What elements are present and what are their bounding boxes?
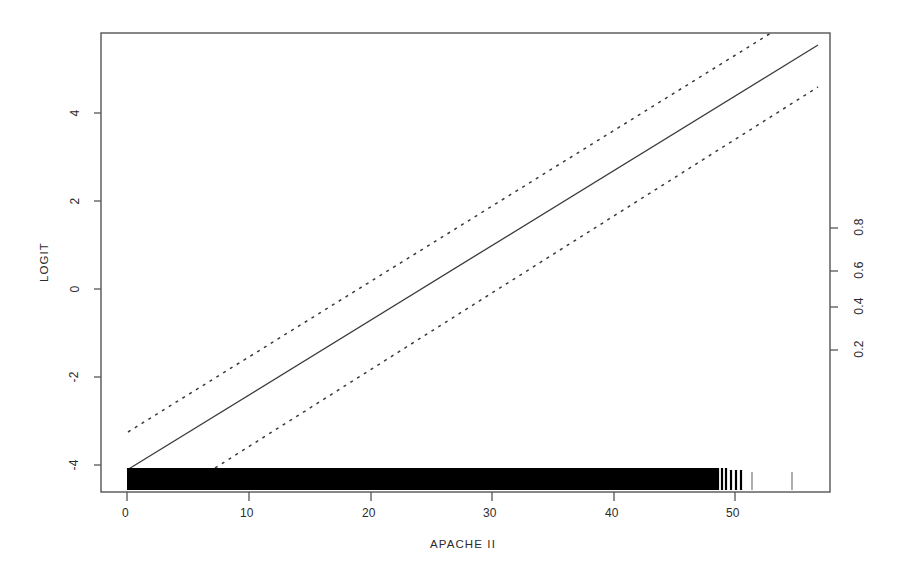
- x-axis-ticks: [127, 492, 735, 501]
- rug-isolated-marks: [752, 472, 792, 490]
- x-tick-label-20: 20: [362, 506, 376, 520]
- y2-tick-label-08: 0.8: [852, 218, 866, 235]
- y2-tick-label-02: 0.2: [852, 340, 866, 357]
- x-tick-label-40: 40: [605, 506, 619, 520]
- rug-sparse-marks: [718, 468, 741, 490]
- y-tick-label-neg4: -4: [67, 459, 81, 470]
- y-tick-label-0: 0: [68, 286, 82, 293]
- x-tick-label-10: 10: [240, 506, 254, 520]
- y-tick-label-neg2: -2: [67, 371, 81, 382]
- y2-tick-label-06: 0.6: [852, 261, 866, 278]
- x-tick-label-0: 0: [122, 506, 129, 520]
- y2-tick-label-04: 0.4: [852, 297, 866, 314]
- chart-plot-area: [0, 0, 902, 574]
- x-tick-label-50: 50: [726, 506, 740, 520]
- series-upper-confidence-limit: [128, 33, 771, 432]
- rug-plot: [127, 468, 792, 490]
- y-tick-label-2: 2: [68, 198, 82, 205]
- y-axis-ticks: [94, 113, 101, 465]
- y2-axis-ticks: [830, 228, 838, 350]
- series-fitted-logit: [127, 45, 818, 470]
- y-axis-title: LOGIT: [38, 232, 50, 292]
- x-tick-label-30: 30: [483, 506, 497, 520]
- series-lower-confidence-limit: [188, 87, 818, 485]
- y-tick-label-4: 4: [68, 110, 82, 117]
- figure-canvas: 4 2 0 -2 -4 0.8 0.6 0.4 0.2 0 10 20 30 4…: [0, 0, 902, 574]
- rug-dense-band: [127, 468, 718, 490]
- x-axis-title: APACHE II: [430, 538, 496, 550]
